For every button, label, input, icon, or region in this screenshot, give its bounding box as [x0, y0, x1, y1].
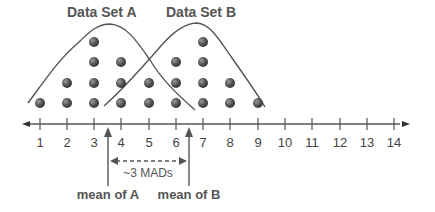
tick-label: 12: [333, 135, 347, 150]
tick-label: 14: [387, 135, 401, 150]
curve-set-b: [104, 23, 265, 107]
tick-label: 2: [63, 135, 70, 150]
tick-label: 9: [254, 135, 261, 150]
mean-b-arrow: [185, 127, 193, 186]
tick-label: 5: [145, 135, 152, 150]
tick-label: 8: [226, 135, 233, 150]
mean-a-label: mean of A: [77, 187, 140, 202]
tick-label: 6: [172, 135, 179, 150]
tick-label: 11: [305, 135, 319, 150]
dot-plot-diagram: Data Set A Data Set B: [0, 0, 435, 212]
title-data-set-b: Data Set B: [166, 4, 236, 20]
tick-label: 3: [90, 135, 97, 150]
mad-distance-arrow: [110, 157, 187, 165]
number-line: 1 2 3 4 5 6 7 8 9 10 11 12 13 14: [22, 118, 410, 150]
mad-distance-label: ~3 MADs: [123, 166, 173, 180]
tick-label: 1: [36, 135, 43, 150]
arrow-right-icon: [402, 121, 410, 127]
dots: [35, 37, 263, 108]
tick-label: 13: [360, 135, 374, 150]
tick-label: 10: [278, 135, 292, 150]
title-data-set-a: Data Set A: [67, 4, 137, 20]
tick-label: 7: [199, 135, 206, 150]
tick-label: 4: [117, 135, 124, 150]
arrow-up-icon: [185, 127, 193, 137]
arrow-left-icon: [22, 121, 30, 127]
arrow-up-icon: [104, 127, 112, 137]
mean-a-arrow: [104, 127, 112, 186]
mean-b-label: mean of B: [158, 187, 221, 202]
